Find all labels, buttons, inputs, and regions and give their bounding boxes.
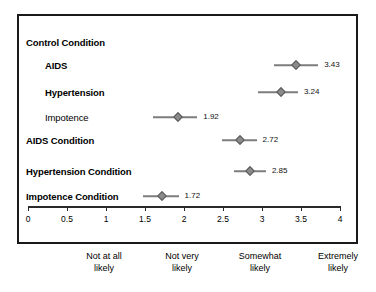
anchor-label-line1: Not very [165, 250, 199, 262]
value-label: 3.24 [304, 87, 320, 97]
axis-tick [106, 206, 107, 211]
row-label: Impotence [45, 112, 88, 123]
axis-tick [67, 206, 68, 211]
data-row: Hypertension Condition2.85 [19, 163, 356, 179]
axis-tick-label: 3 [260, 214, 265, 224]
anchor-label-line2: likely [165, 262, 199, 274]
data-point-marker [235, 135, 245, 145]
axis-tick [184, 206, 185, 211]
anchor-label-line2: likely [86, 262, 122, 274]
anchor-label: Somewhatlikely [239, 250, 282, 274]
data-row: Impotence1.92 [19, 109, 356, 125]
anchor-labels: Not at alllikelyNot verylikelySomewhatli… [17, 250, 358, 286]
plot-area: Control ConditionAIDS3.43Hypertension3.2… [17, 14, 358, 244]
data-point-marker [291, 60, 301, 70]
axis-tick-label: 2 [182, 214, 187, 224]
axis-tick [340, 206, 341, 211]
data-point-marker [276, 87, 286, 97]
value-label: 3.43 [324, 60, 340, 70]
data-point-marker [173, 112, 183, 122]
data-row: AIDS Condition2.72 [19, 132, 356, 148]
axis-tick [28, 206, 29, 211]
anchor-label-line1: Somewhat [239, 250, 282, 262]
anchor-label-line1: Not at all [86, 250, 122, 262]
row-label: AIDS [45, 60, 67, 71]
axis-tick-label: 4 [338, 214, 343, 224]
anchor-label: Extremelylikely [318, 250, 358, 274]
row-label: Hypertension Condition [26, 166, 131, 177]
anchor-label: Not at alllikely [86, 250, 122, 274]
anchor-label-line2: likely [318, 262, 358, 274]
row-label: Control Condition [26, 37, 105, 48]
axis-tick [223, 206, 224, 211]
axis-tick-label: 0 [26, 214, 31, 224]
axis-tick-label: 0.5 [61, 214, 73, 224]
data-row: Control Condition [19, 34, 356, 50]
data-point-marker [157, 191, 167, 201]
axis-tick [262, 206, 263, 211]
data-row: Hypertension3.24 [19, 84, 356, 100]
anchor-label-line1: Extremely [318, 250, 358, 262]
forest-plot-figure: Control ConditionAIDS3.43Hypertension3.2… [0, 0, 376, 292]
value-label: 1.92 [203, 112, 219, 122]
data-point-marker [245, 166, 255, 176]
data-row: AIDS3.43 [19, 57, 356, 73]
axis-tick-label: 1.5 [139, 214, 151, 224]
data-row: Impotence Condition1.72 [19, 188, 356, 204]
value-label: 1.72 [185, 191, 201, 201]
value-label: 2.72 [263, 135, 279, 145]
value-label: 2.85 [272, 166, 288, 176]
row-label: AIDS Condition [26, 135, 94, 146]
anchor-label: Not verylikely [165, 250, 199, 274]
axis-tick-label: 2.5 [217, 214, 229, 224]
axis-tick [301, 206, 302, 211]
axis-tick-label: 3.5 [295, 214, 307, 224]
anchor-label-line2: likely [239, 262, 282, 274]
x-axis: 00.511.522.533.54 [19, 206, 356, 246]
axis-tick-label: 1 [104, 214, 109, 224]
row-label: Impotence Condition [26, 191, 119, 202]
row-label: Hypertension [45, 87, 105, 98]
axis-tick [145, 206, 146, 211]
